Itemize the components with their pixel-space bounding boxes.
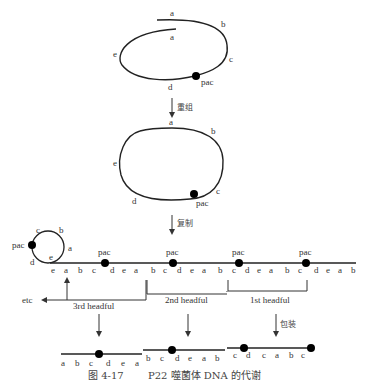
label-a: a: [169, 117, 173, 127]
label-e: e: [113, 49, 117, 59]
pac-site-marker: [190, 190, 198, 198]
figure-number: 图 4-17: [88, 370, 124, 381]
svg-text:c: c: [232, 265, 236, 275]
label-d: d: [132, 196, 137, 206]
pac-site-marker: [192, 72, 200, 80]
svg-text:b: b: [215, 353, 220, 363]
svg-text:c: c: [92, 265, 96, 275]
label-a: a: [68, 243, 72, 253]
svg-text:e: e: [190, 265, 194, 275]
step-replication-label: 复制: [177, 218, 193, 228]
svg-text:b: b: [351, 265, 356, 275]
p22-dna-diagram: a a b c d e pac 重组 a b c d e pac 复制 c b …: [0, 0, 371, 388]
svg-text:a: a: [275, 350, 279, 360]
svg-text:c: c: [298, 265, 302, 275]
svg-text:b: b: [285, 265, 290, 275]
packaged-fragment-2: b c d e a b: [143, 346, 225, 363]
svg-text:d: d: [106, 358, 111, 368]
svg-text:c: c: [233, 350, 237, 360]
step-recombination-label: 重组: [177, 102, 193, 112]
stage2-circular-dna: a b c d e pac: [113, 117, 223, 208]
svg-text:a: a: [135, 358, 139, 368]
svg-text:d: d: [175, 353, 180, 363]
svg-text:c: c: [89, 358, 93, 368]
concatemer-sequence: e a b c d e a b c d e a b c d e a b c d …: [51, 265, 356, 275]
svg-text:d: d: [246, 350, 251, 360]
label-e: e: [113, 158, 117, 168]
svg-text:e: e: [188, 353, 192, 363]
svg-text:b: b: [75, 358, 80, 368]
label-pac: pac: [201, 77, 214, 87]
svg-text:a: a: [61, 358, 65, 368]
svg-text:b: b: [289, 350, 294, 360]
label-c: c: [229, 54, 233, 64]
label-pac: pac: [98, 247, 111, 257]
label-pac: pac: [232, 247, 245, 257]
svg-text:c: c: [301, 350, 305, 360]
svg-text:d: d: [314, 265, 319, 275]
label-c: c: [216, 186, 220, 196]
label-a-top: a: [170, 8, 174, 18]
svg-text:e: e: [122, 265, 126, 275]
second-headful-label: 2nd headful: [165, 295, 208, 305]
svg-text:a: a: [202, 265, 206, 275]
pac-site-marker: [28, 241, 36, 249]
label-e: e: [49, 252, 53, 262]
label-pac: pac: [166, 247, 179, 257]
svg-text:b: b: [151, 265, 156, 275]
svg-text:e: e: [51, 265, 55, 275]
label-pac: pac: [12, 240, 25, 250]
label-pac: pac: [196, 198, 209, 208]
svg-text:c: c: [160, 353, 164, 363]
svg-text:b: b: [218, 265, 223, 275]
svg-text:a: a: [338, 265, 342, 275]
label-pac: pac: [299, 247, 312, 257]
svg-text:c: c: [262, 350, 266, 360]
figure-caption: P22 噬菌体 DNA 的代谢: [148, 369, 261, 381]
svg-text:b: b: [146, 353, 151, 363]
svg-text:c: c: [163, 265, 167, 275]
svg-text:a: a: [202, 353, 206, 363]
label-b: b: [59, 225, 64, 235]
first-headful-label: 1st headful: [250, 295, 290, 305]
label-c: c: [36, 225, 40, 235]
svg-text:b: b: [78, 265, 83, 275]
svg-text:e: e: [257, 265, 261, 275]
svg-text:a: a: [269, 265, 273, 275]
svg-text:d: d: [245, 265, 250, 275]
label-b: b: [221, 19, 226, 29]
label-d: d: [168, 82, 173, 92]
third-headful-label: 3rd headful: [73, 301, 115, 311]
step-packaging-label: 包装: [280, 319, 296, 329]
svg-text:a: a: [64, 265, 68, 275]
svg-text:d: d: [177, 265, 182, 275]
packaged-fragment-3: a b c d e a: [61, 350, 142, 368]
svg-text:a: a: [134, 265, 138, 275]
packaged-fragment-1: c d c a b c: [227, 344, 315, 360]
svg-text:e: e: [326, 265, 330, 275]
stage1-linear-dna: a a b c d e pac: [113, 8, 233, 92]
rolling-circle: c b a e d pac pac pac pac pac e a b c d …: [12, 225, 356, 311]
label-b: b: [211, 126, 216, 136]
label-a-inner: a: [170, 32, 174, 42]
svg-text:d: d: [110, 265, 115, 275]
etc-label: etc: [22, 295, 33, 305]
svg-text:e: e: [121, 358, 125, 368]
label-d: d: [30, 257, 35, 267]
